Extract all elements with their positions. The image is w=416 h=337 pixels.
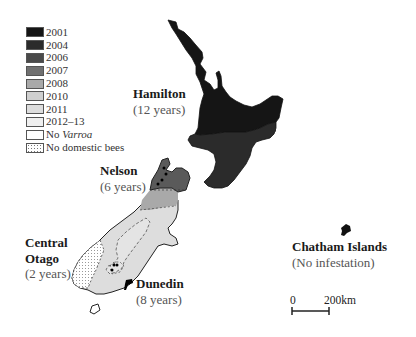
scale-end-label: 200km (324, 294, 356, 306)
infestation-dot (157, 183, 160, 186)
label-chatham-islands: Chatham Islands (No infestation) (292, 239, 387, 270)
infestation-dot (161, 179, 164, 182)
new-zealand-map (0, 0, 416, 337)
infestation-dot (111, 269, 114, 272)
chatham-islands (341, 224, 351, 236)
label-hamilton: Hamilton (12 years) (133, 86, 186, 117)
infestation-dot (116, 264, 119, 267)
label-dunedin: Dunedin (8 years) (136, 276, 184, 307)
label-nelson: Nelson (6 years) (100, 163, 146, 194)
label-central-otago: Central Otago (2 years) (25, 235, 71, 282)
infestation-dot (113, 264, 116, 267)
north-island-2001-region (168, 20, 283, 135)
infestation-dot (163, 167, 166, 170)
stewart-island (90, 304, 100, 314)
scale-bar (292, 307, 329, 315)
infestation-dot (165, 173, 168, 176)
scale-start-label: 0 (290, 294, 296, 306)
nelson-2006-region (150, 158, 190, 192)
